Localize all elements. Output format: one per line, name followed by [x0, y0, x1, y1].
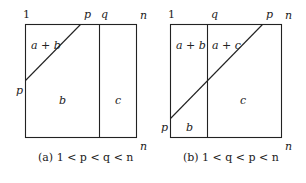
- panel-b-region-b: b: [186, 122, 193, 133]
- panel-b-label-n-top: n: [285, 10, 292, 21]
- panel-b-region-a-plus-b: a + b: [176, 40, 206, 51]
- panel-a-caption: (a) 1 < p < q < n: [38, 152, 133, 163]
- panel-a-label-n-bottom: n: [140, 141, 147, 152]
- panel-b-caption: (b) 1 < q < p < n: [183, 152, 279, 163]
- panel-a-label-q-top: q: [101, 9, 108, 20]
- panel-a-region-a-plus-b: a + b: [31, 40, 61, 51]
- panel-b-label-q-top: q: [211, 9, 218, 20]
- panel-a-region-b: b: [59, 95, 66, 106]
- panel-a-label-1: 1: [23, 9, 30, 20]
- panel-a-label-p-left: p: [16, 85, 23, 96]
- panel-b-region-c: c: [240, 95, 246, 106]
- panel-a-diagonal: [26, 25, 81, 81]
- panel-b-label-1: 1: [168, 9, 175, 20]
- panel-a-region-c: c: [115, 95, 121, 106]
- panel-a-label-p-top: p: [84, 9, 91, 20]
- panel-a-label-n-top: n: [140, 10, 147, 21]
- panel-b-label-p-left: p: [161, 122, 168, 133]
- panel-b-label-p-top: p: [266, 9, 273, 20]
- panel-b-region-a-plus-c: a + c: [212, 40, 241, 51]
- panel-b-label-n-bottom: n: [285, 141, 292, 152]
